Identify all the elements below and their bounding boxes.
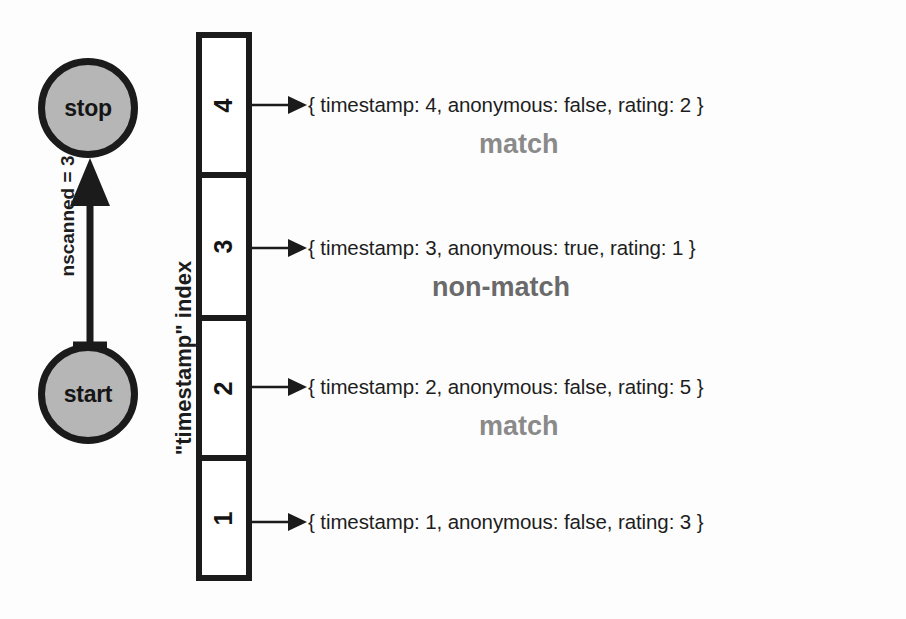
- index-cell-key: 2: [210, 381, 239, 395]
- pointer-arrow-icon: [252, 509, 310, 535]
- document-text: { timestamp: 2, anonymous: false, rating…: [308, 375, 703, 399]
- pointer-arrow-icon: [252, 374, 310, 400]
- document-text: { timestamp: 4, anonymous: false, rating…: [308, 93, 703, 117]
- index-cell[interactable]: 1: [202, 461, 246, 575]
- state-node-start-label: start: [64, 381, 112, 408]
- verdict-label-match-1: match: [479, 129, 559, 160]
- index-cell[interactable]: 3: [202, 178, 246, 321]
- index-cell-key: 4: [210, 98, 239, 112]
- document-text: { timestamp: 3, anonymous: true, rating:…: [308, 236, 696, 260]
- nscanned-label: nscanned = 3: [57, 136, 79, 296]
- document-row: { timestamp: 3, anonymous: true, rating:…: [252, 235, 696, 261]
- document-text: { timestamp: 1, anonymous: false, rating…: [308, 510, 703, 534]
- document-row: { timestamp: 1, anonymous: false, rating…: [252, 509, 703, 535]
- verdict-label-match-2: match: [479, 411, 559, 442]
- index-cell-key: 3: [210, 240, 239, 254]
- index-cell[interactable]: 2: [202, 321, 246, 461]
- document-row: { timestamp: 2, anonymous: false, rating…: [252, 374, 703, 400]
- index-cell[interactable]: 4: [202, 38, 246, 178]
- state-node-stop-label: stop: [64, 95, 111, 122]
- timestamp-index-column: 4 3 2 1: [196, 32, 252, 581]
- index-cell-key: 1: [210, 511, 239, 525]
- state-node-start: start: [38, 344, 138, 444]
- pointer-arrow-icon: [252, 235, 310, 261]
- document-row: { timestamp: 4, anonymous: false, rating…: [252, 92, 703, 118]
- state-node-stop: stop: [38, 58, 138, 158]
- index-column-label: "timestamp" index: [171, 258, 197, 458]
- verdict-label-non-match: non-match: [432, 272, 570, 303]
- diagram-canvas: stop start nscanned = 3 4 3 2 1 "timesta…: [0, 0, 906, 619]
- pointer-arrow-icon: [252, 92, 310, 118]
